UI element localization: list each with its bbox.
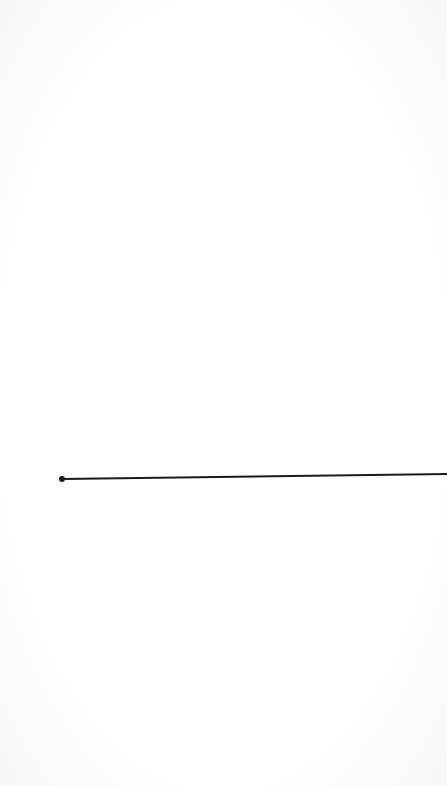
drawing-canvas[interactable] — [0, 0, 447, 786]
line-start-handle[interactable] — [59, 476, 65, 482]
line-layer — [0, 0, 447, 786]
line-segment[interactable] — [62, 474, 447, 479]
